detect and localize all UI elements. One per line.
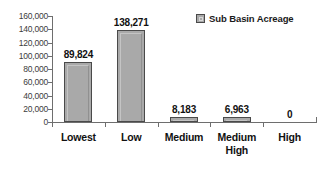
x-axis-category-label: High (278, 131, 301, 144)
y-axis-tick-label: 140,000 (4, 24, 48, 34)
bar (64, 62, 92, 122)
x-axis-category-label: Lowest (61, 131, 96, 144)
y-axis-tick-label: 0 (4, 117, 48, 127)
y-axis-tick-mark (48, 109, 52, 110)
y-axis-tick-label: 80,000 (4, 64, 48, 74)
bar-value-label: 138,271 (114, 17, 149, 28)
y-axis-tick-label: 120,000 (4, 38, 48, 48)
y-axis: 020,00040,00060,00080,000100,000120,0001… (0, 0, 48, 171)
x-axis-category-label: Medium (165, 131, 203, 144)
bar (223, 117, 251, 122)
x-axis-tick-mark (210, 122, 211, 127)
y-axis-tick-label: 100,000 (4, 51, 48, 61)
x-axis-tick-mark (105, 122, 106, 127)
y-axis-tick-label: 160,000 (4, 11, 48, 21)
bar (170, 117, 198, 122)
bar-value-label: 0 (287, 109, 292, 120)
y-axis-tick-label: 60,000 (4, 77, 48, 87)
y-axis-tick-label: 20,000 (4, 104, 48, 114)
y-axis-tick-label: 40,000 (4, 91, 48, 101)
bar-value-label: 6,963 (225, 104, 249, 115)
x-axis-tick-mark (52, 122, 53, 127)
bar-value-label: 89,824 (64, 49, 93, 60)
bar-chart: Sub Basin Acreage 020,00040,00060,00080,… (0, 0, 323, 171)
y-axis-tick-mark (48, 29, 52, 30)
x-axis-category-label: Medium High (218, 131, 256, 157)
bar-value-label: 8,183 (172, 104, 196, 115)
y-axis-tick-mark (48, 56, 52, 57)
x-axis-category-label: Low (121, 131, 141, 144)
y-axis-tick-mark (48, 96, 52, 97)
x-axis-line (52, 122, 317, 123)
bar (117, 30, 145, 122)
y-axis-tick-mark (48, 69, 52, 70)
y-axis-tick-mark (48, 43, 52, 44)
y-axis-tick-mark (48, 82, 52, 83)
x-axis-tick-mark (263, 122, 264, 127)
x-axis-tick-mark (158, 122, 159, 127)
y-axis-tick-mark (48, 16, 52, 17)
